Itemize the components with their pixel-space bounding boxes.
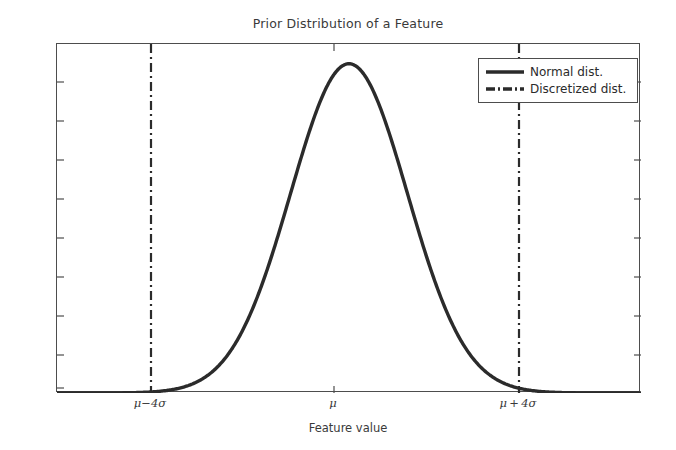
x-axis-label: Feature value	[56, 421, 640, 435]
normal-dist-curve	[57, 64, 641, 393]
x-axis-ticks	[151, 44, 519, 393]
legend-label-normal-dist: Normal dist.	[530, 66, 603, 78]
x-tick-label-left: μ−4σ	[134, 396, 166, 410]
chart-figure: Prior Distribution of a Feature Probabil…	[0, 0, 676, 450]
y-axis-ticks	[57, 82, 64, 388]
legend-entry-normal-dist: Normal dist.	[485, 63, 631, 80]
x-tick-label-center: μ	[329, 396, 336, 410]
legend-label-discretized-dist: Discretized dist.	[530, 83, 626, 95]
legend-entry-discretized-dist: Discretized dist.	[485, 80, 631, 97]
y-axis-ticks-right	[634, 82, 641, 355]
legend: Normal dist. Discretized dist.	[478, 58, 638, 103]
discretized-dist-lines	[151, 44, 519, 393]
page-title: Prior Distribution of a Feature	[56, 16, 640, 31]
legend-swatch-dashdot-line-icon	[485, 83, 525, 95]
x-tick-label-right: μ + 4σ	[500, 396, 537, 410]
legend-swatch-solid-line-icon	[485, 66, 525, 78]
